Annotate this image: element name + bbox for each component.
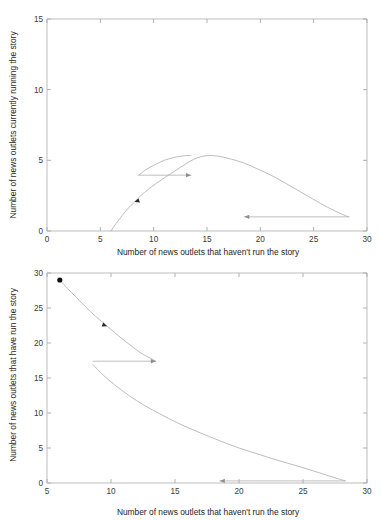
top-annotation-group [134,173,250,219]
start-point-marker [57,277,62,282]
figure-container: 051015202530 051015 Number of news outle… [0,0,382,520]
chart-panel-top: 051015202530 051015 Number of news outle… [0,0,382,260]
top-plot-svg: 051015202530 051015 Number of news outle… [0,0,382,260]
x-tick-label: 25 [298,487,308,496]
bottom-x-tick-group [47,273,367,483]
top-y-tick-group [47,19,367,231]
series-trajectory-decay-upper [60,280,156,361]
x-tick-label: 10 [149,235,159,244]
series-trajectory-decay-lower [93,365,345,481]
bottom-plot-svg: 51015202530 051015202530 Number of news … [0,255,382,520]
x-tick-label: 15 [170,487,180,496]
bottom-plot-axes [47,273,367,483]
bottom-y-axis-title: Number of news outlets that have run the… [8,287,18,461]
x-tick-label: 15 [202,235,212,244]
top-series-group [111,155,349,231]
y-tick-label: 15 [34,15,44,24]
top-y-tick-labels: 051015 [34,15,44,236]
y-tick-label: 0 [38,479,43,488]
top-axis-frame [47,19,367,231]
y-tick-label: 30 [34,269,44,278]
x-tick-label: 30 [362,235,372,244]
x-tick-label: 5 [98,235,103,244]
bottom-y-tick-labels: 051015202530 [34,269,44,488]
bottom-x-tick-labels: 51015202530 [45,487,372,496]
y-tick-label: 5 [38,156,43,165]
y-tick-label: 10 [34,409,44,418]
x-tick-label: 20 [256,235,266,244]
x-tick-label: 5 [45,487,50,496]
top-y-axis-title: Number of news outlets currently running… [8,31,18,219]
direction-arrowhead [186,173,191,177]
x-tick-label: 0 [45,235,50,244]
y-tick-label: 15 [34,374,44,383]
bottom-annotation-group [57,277,225,483]
y-tick-label: 0 [38,227,43,236]
series-trajectory-rise [111,156,349,231]
y-tick-label: 20 [34,339,44,348]
x-tick-label: 10 [106,487,116,496]
bottom-x-axis-title: Number of news outlets that haven't run … [117,507,300,517]
top-x-tick-labels: 051015202530 [45,235,372,244]
x-tick-label: 30 [362,487,372,496]
direction-arrowhead [102,322,108,328]
y-tick-label: 25 [34,304,44,313]
bottom-axis-frame [47,273,367,483]
bottom-y-tick-group [47,273,367,483]
direction-arrowhead [244,215,249,219]
chart-panel-bottom: 51015202530 051015202530 Number of news … [0,255,382,520]
bottom-series-group [60,280,345,481]
top-plot-axes [47,19,367,231]
x-tick-label: 25 [309,235,319,244]
y-tick-label: 5 [38,444,43,453]
direction-arrowhead [220,479,225,483]
top-x-tick-group [47,19,367,231]
x-tick-label: 20 [234,487,244,496]
y-tick-label: 10 [34,86,44,95]
